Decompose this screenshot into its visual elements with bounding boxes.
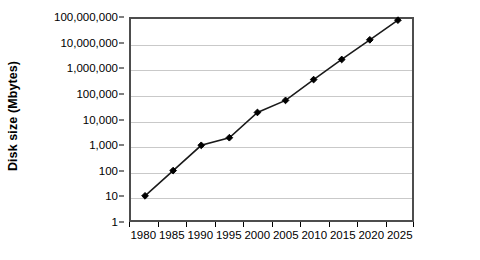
x-axis-tick-mark: [300, 222, 301, 227]
x-axis-tick-mark: [243, 222, 244, 227]
x-axis-tick-label: 1995: [216, 229, 242, 241]
x-axis-tick-label: 1990: [187, 229, 213, 241]
x-axis-tick-mark: [129, 222, 130, 227]
y-axis-tick-label: 10,000: [83, 114, 118, 126]
x-axis-tick-label: 2020: [358, 229, 384, 241]
y-axis-tick-label: 1,000: [89, 139, 118, 151]
x-axis-tick-mark: [386, 222, 387, 227]
x-axis-tick-label: 2005: [273, 229, 299, 241]
y-axis-tick-mark: [119, 170, 124, 171]
x-axis-tick-label: 1980: [130, 229, 156, 241]
x-axis-tick-mark: [158, 222, 159, 227]
x-axis-tick-label: 2010: [301, 229, 327, 241]
x-axis-tick-mark: [272, 222, 273, 227]
y-axis-tick-mark: [119, 145, 124, 146]
y-axis-tick-label: 100,000: [76, 88, 118, 100]
series-line: [145, 20, 398, 196]
x-axis-tick-mark: [186, 222, 187, 227]
x-axis-tick-label: 2015: [330, 229, 356, 241]
x-axis-tick-mark: [215, 222, 216, 227]
x-axis-tick-label: 2025: [387, 229, 413, 241]
plot-area: [129, 17, 414, 222]
y-axis-tick-labels: 100,000,00010,000,0001,000,000100,00010,…: [26, 17, 124, 222]
data-series-disk-size: [131, 19, 412, 221]
y-axis-tick-label: 1,000,000: [67, 62, 118, 74]
y-axis-tick-mark: [119, 119, 124, 120]
y-axis-tick-label: 10: [105, 190, 118, 202]
y-axis-tick-mark: [119, 17, 124, 18]
y-axis-tick-label: 1: [112, 216, 118, 228]
y-axis-title: Disk size (Mbytes): [0, 0, 26, 232]
y-axis-tick-mark: [119, 196, 124, 197]
y-axis-tick-label: 10,000,000: [60, 37, 118, 49]
x-axis-tick-marks: [129, 222, 414, 227]
y-axis-tick-label: 100,000,000: [54, 11, 118, 23]
x-axis-tick-mark: [329, 222, 330, 227]
x-axis-tick-label: 1985: [159, 229, 185, 241]
y-axis-tick-mark: [119, 222, 124, 223]
x-axis-tick-mark: [357, 222, 358, 227]
y-axis-tick-mark: [119, 68, 124, 69]
y-axis-tick-mark: [119, 93, 124, 94]
x-axis-tick-mark: [413, 222, 414, 227]
y-axis-tick-label: 100: [99, 165, 118, 177]
y-axis-tick-mark: [119, 42, 124, 43]
disk-size-line-chart: Disk size (Mbytes) 100,000,00010,000,000…: [0, 0, 480, 260]
x-axis-tick-labels: 1980198519901995200020052010201520202025: [129, 229, 414, 249]
y-axis-title-label: Disk size (Mbytes): [6, 61, 20, 171]
x-axis-tick-label: 2000: [244, 229, 270, 241]
